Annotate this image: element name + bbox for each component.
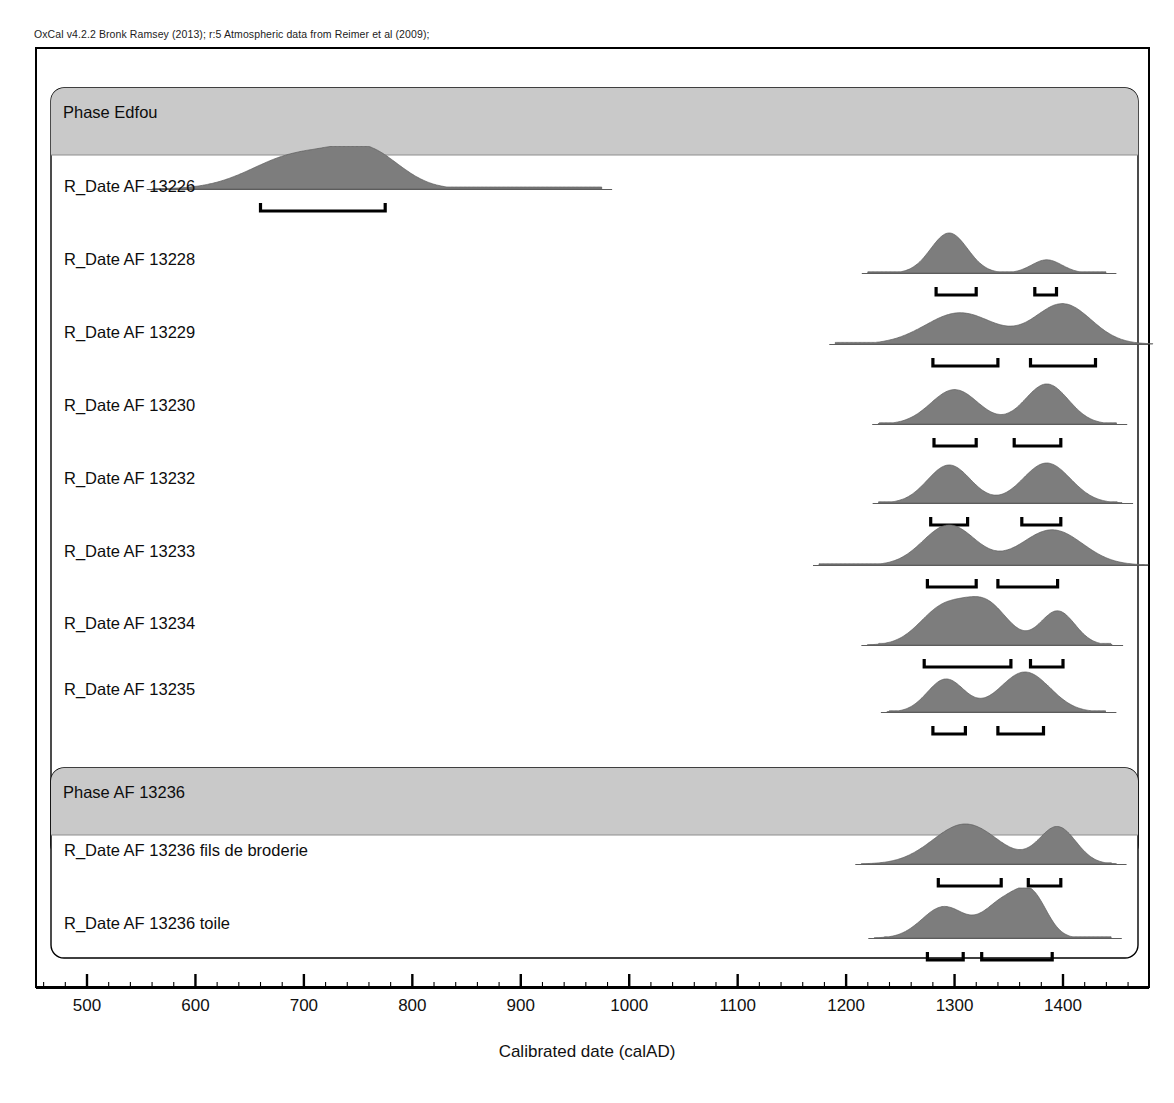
axis-tick-label: 500 xyxy=(73,996,101,1015)
phase-label-0: Phase Edfou xyxy=(63,103,158,121)
phase-label-1: Phase AF 13236 xyxy=(63,783,185,801)
phase-group-0: Phase Edfou xyxy=(51,88,1138,858)
axis-tick-label: 1100 xyxy=(719,996,756,1015)
axis-tick-label: 1000 xyxy=(610,996,648,1015)
axis-tick-label: 1400 xyxy=(1044,996,1082,1015)
row-label: R_Date AF 13230 xyxy=(64,396,195,415)
row-label: R_Date AF 13236 toile xyxy=(64,914,230,933)
row-label: R_Date AF 13233 xyxy=(64,542,195,561)
row-label: R_Date AF 13226 xyxy=(64,177,195,196)
axis-tick-label: 700 xyxy=(290,996,318,1015)
calibration-plot-canvas: Phase EdfouPhase AF 13236R_Date AF 13226… xyxy=(0,0,1174,1103)
axis-tick-label: 900 xyxy=(507,996,535,1015)
axis-tick-label: 800 xyxy=(398,996,426,1015)
row-label: R_Date AF 13229 xyxy=(64,323,195,342)
x-axis: 50060070080090010001100120013001400 xyxy=(36,974,1149,1015)
row-label: R_Date AF 13236 fils de broderie xyxy=(64,841,308,860)
axis-tick-label: 600 xyxy=(181,996,209,1015)
row-label: R_Date AF 13234 xyxy=(64,614,195,633)
phase-box xyxy=(51,88,1138,858)
oxcal-plot-page: OxCal v4.2.2 Bronk Ramsey (2013); r:5 At… xyxy=(0,0,1174,1103)
axis-tick-label: 1200 xyxy=(827,996,865,1015)
axis-tick-label: 1300 xyxy=(936,996,974,1015)
row-label: R_Date AF 13228 xyxy=(64,250,195,269)
x-axis-title: Calibrated date (calAD) xyxy=(0,1042,1174,1062)
row-label: R_Date AF 13232 xyxy=(64,469,195,488)
row-label: R_Date AF 13235 xyxy=(64,680,195,699)
